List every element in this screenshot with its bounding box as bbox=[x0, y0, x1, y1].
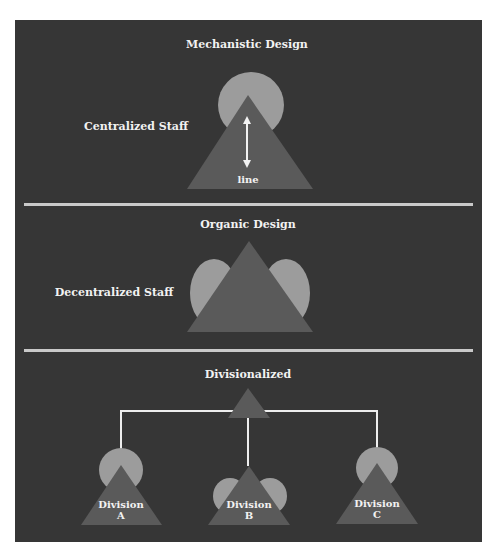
mechanistic-title: Mechanistic Design bbox=[186, 38, 308, 51]
division-a: Division A bbox=[81, 448, 162, 525]
centralized-staff-label: Centralized Staff bbox=[84, 120, 189, 133]
headquarters-triangle bbox=[228, 388, 270, 418]
divisionalized-title: Divisionalized bbox=[205, 368, 292, 381]
line-label: line bbox=[237, 174, 258, 185]
mechanistic-section: Mechanistic Design Centralized Staff lin… bbox=[84, 38, 313, 189]
division-c-label-line2: C bbox=[373, 509, 381, 520]
division-b: Division B bbox=[208, 466, 290, 525]
division-b-label-line2: B bbox=[245, 510, 253, 521]
divisionalized-section: Divisionalized Division A Division B Div… bbox=[81, 368, 418, 525]
divider-2 bbox=[24, 349, 473, 352]
divider-1 bbox=[24, 203, 473, 206]
connector-lines bbox=[121, 411, 377, 466]
division-c: Division C bbox=[336, 447, 418, 524]
division-c-label-line1: Division bbox=[354, 498, 400, 509]
division-a-label-line2: A bbox=[116, 510, 125, 521]
organic-title: Organic Design bbox=[200, 218, 296, 231]
organic-section: Organic Design Decentralized Staff bbox=[55, 218, 313, 332]
decentralized-staff-label: Decentralized Staff bbox=[55, 286, 175, 299]
org-design-diagram: Mechanistic Design Centralized Staff lin… bbox=[0, 0, 500, 558]
division-a-label-line1: Division bbox=[98, 499, 144, 510]
division-b-label-line1: Division bbox=[226, 499, 272, 510]
